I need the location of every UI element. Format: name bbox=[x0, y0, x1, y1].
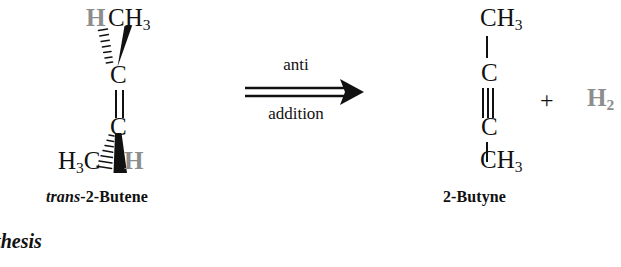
reactant-bottom-right-hydrogen-label: H bbox=[124, 148, 143, 173]
byproduct-h: H bbox=[587, 84, 606, 111]
bottom-methyl-c: C bbox=[84, 147, 101, 174]
bottom-methyl-subscript: 3 bbox=[76, 159, 84, 176]
reactant-bottom-left-methyl-label: H3C bbox=[58, 148, 101, 176]
reactant-name-body: -2-Butene bbox=[80, 188, 148, 205]
reaction-scheme-figure: H CH3 C C bbox=[0, 0, 621, 267]
methyl-subscript: 3 bbox=[143, 16, 151, 33]
reaction-arrow-group: anti addition bbox=[236, 55, 371, 135]
reactant-group: H CH3 C C bbox=[0, 0, 230, 215]
reaction-arrow-icon bbox=[244, 79, 366, 105]
reactant-carbon-upper-label: C bbox=[110, 62, 127, 87]
arrow-condition-below: addition bbox=[236, 104, 356, 124]
product-top-methyl-subscript: 3 bbox=[515, 16, 523, 33]
product-group: CH3 C C CH3 2-Butyne bbox=[380, 0, 550, 215]
byproduct-group: + H2 bbox=[540, 85, 621, 125]
product-bottom-methyl-ch: CH bbox=[480, 146, 515, 173]
bottom-methyl-h: H bbox=[58, 147, 76, 174]
product-top-methyl-label: CH3 bbox=[480, 5, 522, 33]
product-carbon-lower-label: C bbox=[481, 114, 498, 139]
product-bottom-methyl-subscript: 3 bbox=[515, 158, 523, 175]
plus-sign: + bbox=[540, 88, 554, 112]
product-bottom-methyl-label: CH3 bbox=[480, 147, 522, 175]
product-carbon-upper-label: C bbox=[481, 60, 498, 85]
reactant-compound-name: trans-2-Butene bbox=[46, 188, 148, 206]
caption-text-fragment: nthesis bbox=[0, 230, 42, 253]
product-compound-name: 2-Butyne bbox=[443, 188, 506, 206]
byproduct-subscript: 2 bbox=[606, 96, 614, 113]
reactant-name-stereo-prefix: trans bbox=[46, 188, 80, 205]
byproduct-hydrogen-label: H2 bbox=[587, 85, 614, 113]
arrow-condition-above: anti bbox=[236, 55, 356, 75]
product-single-bond-top bbox=[486, 36, 488, 58]
product-top-methyl-ch: CH bbox=[480, 4, 515, 31]
